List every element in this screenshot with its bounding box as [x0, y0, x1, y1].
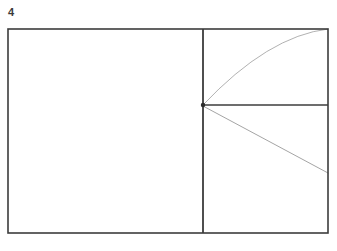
left-panel-region [8, 29, 203, 233]
figure-drawing-canvas [0, 0, 337, 251]
junction-node-dot [201, 103, 205, 107]
figure-container: 4 [0, 0, 337, 251]
right-lower-panel-region [203, 105, 328, 233]
right-upper-panel-region [203, 29, 328, 105]
